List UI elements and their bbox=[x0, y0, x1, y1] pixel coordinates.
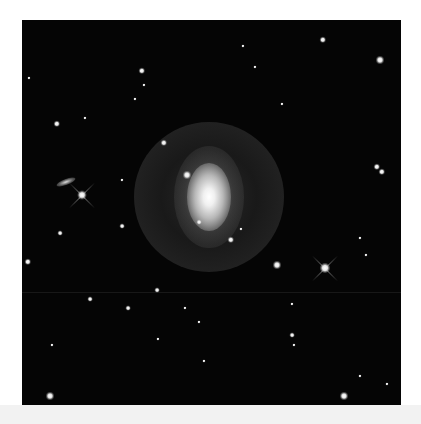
star bbox=[156, 337, 159, 340]
star bbox=[88, 297, 93, 302]
star bbox=[46, 392, 54, 400]
star bbox=[50, 343, 53, 346]
star bbox=[54, 121, 60, 127]
star bbox=[139, 68, 145, 74]
star bbox=[202, 359, 205, 362]
star bbox=[25, 259, 31, 265]
star bbox=[197, 220, 202, 225]
star bbox=[340, 392, 348, 400]
star bbox=[183, 306, 186, 309]
star bbox=[320, 37, 326, 43]
star bbox=[120, 178, 123, 181]
star bbox=[133, 97, 136, 100]
star bbox=[376, 56, 384, 64]
star bbox=[58, 231, 63, 236]
galaxy-core bbox=[187, 163, 231, 231]
star bbox=[290, 333, 295, 338]
star bbox=[292, 343, 295, 346]
star bbox=[364, 253, 367, 256]
star bbox=[27, 76, 30, 79]
bottom-margin bbox=[0, 405, 421, 424]
star bbox=[290, 302, 293, 305]
star bbox=[280, 102, 283, 105]
star bbox=[155, 288, 160, 293]
star bbox=[241, 44, 244, 47]
star bbox=[142, 83, 145, 86]
star bbox=[197, 320, 200, 323]
companion-knot bbox=[183, 171, 191, 179]
star bbox=[385, 382, 388, 385]
star bbox=[83, 116, 86, 119]
star bbox=[358, 236, 361, 239]
star bbox=[379, 169, 385, 175]
sensor-seam bbox=[22, 292, 401, 293]
star bbox=[273, 261, 281, 269]
star bbox=[126, 306, 131, 311]
galaxy-image bbox=[22, 20, 401, 405]
bright-star bbox=[78, 191, 87, 200]
star bbox=[358, 374, 361, 377]
star bbox=[253, 65, 256, 68]
bright-star bbox=[320, 263, 330, 273]
star bbox=[120, 224, 125, 229]
